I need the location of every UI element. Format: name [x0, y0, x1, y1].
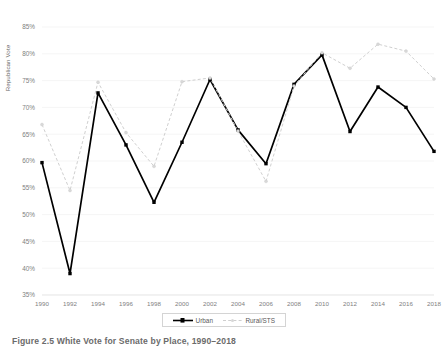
legend-swatch-rural-icon	[223, 317, 243, 324]
chart-plot-area: Republican Vote 35%40%45%50%55%60%65%70%…	[0, 0, 442, 312]
x-axis-tick-label: 2008	[287, 300, 301, 307]
legend-item-rural[interactable]: Rural/STS	[223, 317, 275, 324]
x-axis-tick-label: 2000	[175, 300, 189, 307]
chart-legend[interactable]: Urban Rural/STS	[162, 313, 286, 327]
line-chart-svg: 35%40%45%50%55%60%65%70%75%80%85% 199019…	[0, 0, 442, 312]
data-point	[124, 143, 127, 146]
y-axis-ticks-group: 35%40%45%50%55%60%65%70%75%80%85%	[22, 23, 35, 298]
x-axis-tick-label: 2014	[371, 300, 385, 307]
data-point	[293, 84, 296, 87]
x-axis-tick-label: 2018	[427, 300, 441, 307]
data-point	[404, 106, 407, 109]
data-point	[265, 180, 268, 183]
y-axis-tick-label: 40%	[22, 265, 35, 272]
data-point	[432, 150, 435, 153]
legend-item-urban[interactable]: Urban	[173, 317, 213, 324]
data-point	[376, 85, 379, 88]
y-axis-tick-label: 45%	[22, 238, 35, 245]
y-axis-tick-label: 35%	[22, 291, 35, 298]
y-axis-tick-label: 60%	[22, 157, 35, 164]
x-axis-tick-label: 1994	[91, 300, 105, 307]
x-axis-tick-label: 2016	[399, 300, 413, 307]
x-axis-tick-label: 2012	[343, 300, 357, 307]
data-point	[96, 91, 99, 94]
data-point	[209, 76, 212, 79]
x-axis-tick-label: 2006	[259, 300, 273, 307]
data-point	[40, 161, 43, 164]
data-point	[125, 131, 128, 134]
y-axis-tick-label: 65%	[22, 131, 35, 138]
data-point	[433, 77, 436, 80]
data-point	[153, 165, 156, 168]
data-point	[181, 80, 184, 83]
data-point	[69, 189, 72, 192]
data-point	[41, 123, 44, 126]
data-point	[68, 272, 71, 275]
data-point	[405, 50, 408, 53]
x-axis-tick-label: 2004	[231, 300, 245, 307]
figure-caption: Figure 2.5 White Vote for Senate by Plac…	[12, 336, 432, 346]
data-point	[237, 129, 240, 132]
legend-swatch-urban-icon	[173, 317, 193, 324]
data-point	[180, 141, 183, 144]
data-point	[321, 51, 324, 54]
gridlines-group	[42, 27, 434, 295]
data-point	[377, 43, 380, 46]
x-axis-tick-label: 2002	[203, 300, 217, 307]
y-axis-tick-label: 55%	[22, 184, 35, 191]
data-point	[97, 81, 100, 84]
series-line-rural-sts	[42, 44, 434, 190]
x-axis-tick-label: 2010	[315, 300, 329, 307]
x-axis-ticks-group: 1990199219941996199820002002200420062008…	[35, 300, 441, 307]
y-axis-tick-label: 85%	[22, 23, 35, 30]
x-axis-tick-label: 1992	[63, 300, 77, 307]
x-axis-tick-label: 1996	[119, 300, 133, 307]
legend-label-urban: Urban	[196, 317, 213, 324]
series-lines-group	[42, 44, 434, 273]
data-point	[348, 130, 351, 133]
x-axis-tick-label: 1998	[147, 300, 161, 307]
series-markers-group	[40, 43, 435, 276]
y-axis-tick-label: 50%	[22, 211, 35, 218]
data-point	[264, 162, 267, 165]
y-axis-tick-label: 75%	[22, 77, 35, 84]
x-axis-tick-label: 1990	[35, 300, 49, 307]
legend-label-rural: Rural/STS	[245, 317, 274, 324]
data-point	[349, 67, 352, 70]
data-point	[152, 201, 155, 204]
y-axis-tick-label: 80%	[22, 50, 35, 57]
y-axis-tick-label: 70%	[22, 104, 35, 111]
